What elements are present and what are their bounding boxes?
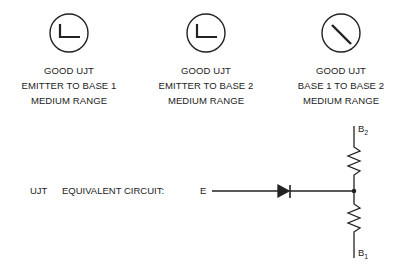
equivalent-circuit: [212, 126, 360, 258]
base2-label: B2: [358, 123, 368, 136]
meter-caption-1: GOOD UJT EMITTER TO BASE 1 MEDIUM RANGE: [0, 63, 139, 108]
diode-icon: [278, 185, 289, 197]
caption-line: BASE 1 TO BASE 2: [271, 78, 406, 93]
diagram-canvas: [0, 0, 406, 272]
caption-line: MEDIUM RANGE: [136, 93, 276, 108]
meter-caption-2: GOOD UJT EMITTER TO BASE 2 MEDIUM RANGE: [136, 63, 276, 108]
meter-icon-1: [50, 14, 88, 52]
meter-icon-3: [322, 14, 360, 52]
circuit-title: EQUIVALENT CIRCUIT:: [62, 185, 164, 196]
caption-line: MEDIUM RANGE: [271, 93, 406, 108]
caption-line: EMITTER TO BASE 1: [0, 78, 139, 93]
meter-icon-2: [187, 14, 225, 52]
base-subscript: 1: [364, 253, 368, 260]
caption-line: MEDIUM RANGE: [0, 93, 139, 108]
caption-line: GOOD UJT: [136, 63, 276, 78]
caption-line: GOOD UJT: [271, 63, 406, 78]
base1-label: B1: [358, 247, 368, 260]
caption-line: GOOD UJT: [0, 63, 139, 78]
meter-caption-3: GOOD UJT BASE 1 TO BASE 2 MEDIUM RANGE: [271, 63, 406, 108]
base-subscript: 2: [364, 129, 368, 136]
caption-line: EMITTER TO BASE 2: [136, 78, 276, 93]
ujt-label: UJT: [30, 185, 47, 196]
emitter-label: E: [200, 185, 206, 196]
